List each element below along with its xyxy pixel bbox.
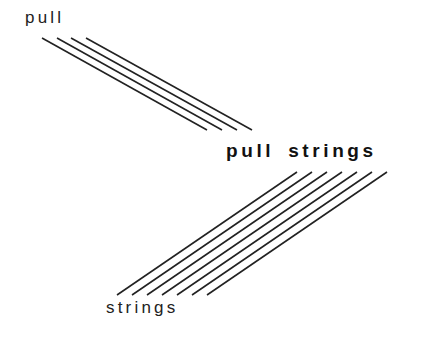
label-pull-strings-combined: pullstrings (226, 140, 377, 162)
strings-line (177, 172, 357, 295)
strings-line (147, 172, 327, 295)
pull-line (57, 38, 222, 130)
pull-line (42, 38, 207, 130)
combined-word-pull: pull (226, 140, 274, 161)
strings-line (117, 172, 297, 295)
combined-word-strings: strings (288, 140, 377, 161)
pull-line (71, 38, 237, 130)
connector-lines (0, 0, 432, 340)
strings-line (192, 172, 372, 295)
pull-line (86, 38, 252, 130)
strings-line (132, 172, 312, 295)
strings-line (162, 172, 342, 295)
label-strings: strings (106, 298, 178, 318)
strings-line (207, 172, 387, 295)
label-pull: pull (25, 8, 64, 28)
diagram-canvas: pull pullstrings strings (0, 0, 432, 340)
